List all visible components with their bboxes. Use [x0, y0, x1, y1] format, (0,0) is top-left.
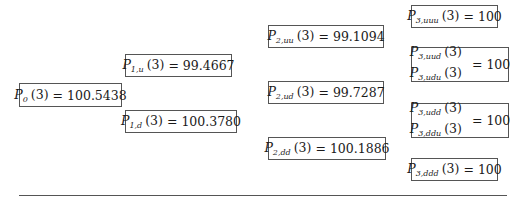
- tree-node-p2uu: P2,uu(3)=99.1094: [268, 25, 384, 48]
- equals-sign: =: [463, 162, 473, 177]
- node-label: P1,d(3): [121, 113, 163, 130]
- node-label: P3,ddu(3): [410, 121, 462, 142]
- equals-sign: =: [318, 85, 328, 100]
- node-label: P3,uud(3): [410, 44, 462, 65]
- node-label: P0(3): [14, 87, 48, 104]
- node-label: P2,dd(3): [264, 140, 311, 157]
- tree-node-p3udd: P3,udd(3)P3,ddu(3)=100: [411, 103, 509, 138]
- equals-sign: =: [168, 58, 178, 73]
- node-label: P3,udd(3): [410, 100, 462, 121]
- node-label: P3,uuu(3): [407, 8, 459, 25]
- node-value: 100.3780: [181, 114, 241, 129]
- node-label-stack: P3,udd(3)P3,ddu(3): [410, 100, 462, 142]
- equals-sign: =: [315, 141, 325, 156]
- tree-node-p2ud: P2,ud(3)=99.7287: [268, 81, 384, 104]
- node-value: 100: [478, 9, 502, 24]
- tree-node-p0: P0(3)=100.5438: [19, 83, 122, 107]
- node-value: 100: [486, 113, 510, 128]
- node-label-stack: P3,uud(3)P3,udu(3): [410, 44, 462, 86]
- node-label: P3,ddd(3): [407, 161, 459, 178]
- tree-node-p3uuu: P3,uuu(3)=100: [411, 5, 498, 28]
- node-value: 100.1886: [330, 141, 390, 156]
- node-label: P1,u(3): [122, 57, 164, 74]
- tree-node-p1d: P1,d(3)=100.3780: [125, 110, 237, 133]
- equals-sign: =: [472, 57, 482, 72]
- node-label: P2,ud(3): [267, 84, 314, 101]
- node-label: P2,uu(3): [267, 28, 314, 45]
- node-value: 99.7287: [333, 85, 385, 100]
- equals-sign: =: [167, 114, 177, 129]
- equals-sign: =: [53, 88, 63, 103]
- equals-sign: =: [318, 29, 328, 44]
- tree-node-p3uud: P3,uud(3)P3,udu(3)=100: [411, 47, 509, 82]
- horizontal-rule: [19, 195, 507, 196]
- node-value: 99.4667: [183, 58, 235, 73]
- node-value: 99.1094: [333, 29, 385, 44]
- tree-node-p1u: P1,u(3)=99.4667: [125, 54, 232, 77]
- tree-node-p2dd: P2,dd(3)=100.1886: [268, 137, 386, 160]
- node-value: 100: [478, 162, 502, 177]
- node-value: 100.5438: [67, 88, 127, 103]
- equals-sign: =: [472, 113, 482, 128]
- node-value: 100: [486, 57, 510, 72]
- tree-node-p3ddd: P3,ddd(3)=100: [411, 158, 498, 181]
- equals-sign: =: [463, 9, 473, 24]
- node-label: P3,udu(3): [410, 65, 462, 86]
